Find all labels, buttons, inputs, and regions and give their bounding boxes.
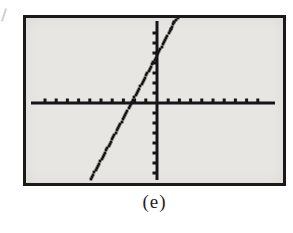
x-axis-tick: [100, 99, 103, 103]
plotted-line-pixel: [121, 121, 124, 124]
plotted-line-pixel: [132, 99, 135, 102]
x-axis-tick: [44, 99, 47, 103]
plotted-line-pixel: [161, 46, 164, 49]
plotted-line-pixel: [177, 18, 180, 19]
x-axis-tick: [111, 99, 114, 103]
x-axis-tick: [178, 99, 181, 103]
y-axis-tick: [153, 92, 157, 95]
y-axis-tick: [153, 172, 157, 175]
plotted-line-pixel: [138, 88, 141, 91]
y-axis: [156, 21, 159, 180]
plotted-line-pixel: [155, 57, 158, 60]
x-axis-tick: [88, 99, 91, 103]
x-axis-tick: [122, 99, 125, 103]
y-axis-tick: [153, 122, 157, 125]
y-axis-tick: [153, 152, 157, 155]
plotted-line-pixel: [171, 26, 174, 29]
x-axis-tick: [55, 99, 58, 103]
x-axis-tick: [223, 99, 226, 103]
x-axis-tick: [167, 99, 170, 103]
plotted-line-pixel: [166, 35, 169, 38]
plotted-line-pixel: [110, 141, 113, 144]
y-axis-tick: [153, 132, 157, 135]
textbook-figure: (e): [0, 0, 293, 233]
scan-artifact-mark: [1, 8, 7, 22]
y-axis-tick: [153, 112, 157, 115]
plotted-line-pixel: [126, 110, 129, 113]
x-axis-tick: [256, 99, 259, 103]
plotted-line-pixel: [144, 77, 147, 80]
x-axis-tick: [189, 99, 192, 103]
plotted-line-pixel: [98, 163, 101, 166]
y-axis-tick: [153, 82, 157, 85]
x-axis-tick: [77, 99, 80, 103]
y-axis-tick: [153, 72, 157, 75]
y-axis-tick: [153, 162, 157, 165]
calculator-screen: [23, 15, 286, 186]
plotted-line-pixel: [150, 66, 153, 69]
x-axis-tick: [234, 99, 237, 103]
figure-caption: (e): [23, 191, 286, 213]
y-axis-tick: [153, 142, 157, 145]
x-axis-tick: [144, 99, 147, 103]
plotted-line-pixel: [92, 174, 95, 177]
plotted-line-pixel: [115, 132, 118, 135]
y-axis-tick: [153, 32, 157, 35]
plot-svg: [26, 18, 283, 183]
plotted-line-pixel: [104, 152, 107, 155]
x-axis-tick: [66, 99, 69, 103]
y-axis-tick: [153, 42, 157, 45]
x-axis-tick: [212, 99, 215, 103]
x-axis-tick: [200, 99, 203, 103]
x-axis-tick: [245, 99, 248, 103]
